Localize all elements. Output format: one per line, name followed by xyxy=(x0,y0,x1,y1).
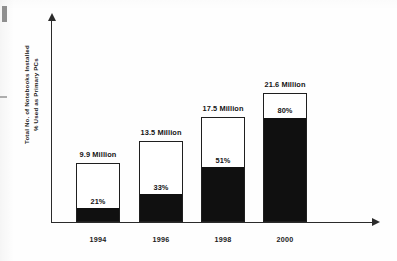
plot-area: 9.9 Million21%199413.5 Million33%199617.… xyxy=(0,0,397,261)
bar-fill-1996 xyxy=(140,194,182,221)
bar-total-label-2000: 21.6 Million xyxy=(264,80,305,89)
bar-percent-label-1994: 21% xyxy=(90,197,105,206)
bar-total-label-1994: 9.9 Million xyxy=(80,150,117,159)
bar-group-2000: 21.6 Million80%2000 xyxy=(263,93,307,222)
bar-group-1998: 17.5 Million51%1998 xyxy=(201,117,245,221)
bar-percent-label-2000: 80% xyxy=(277,106,292,115)
bar-percent-label-1996: 33% xyxy=(153,183,168,192)
x-axis-tick-label-1996: 1996 xyxy=(153,235,170,244)
bar-group-1994: 9.9 Million21%1994 xyxy=(76,163,120,222)
x-axis-tick-label-1994: 1994 xyxy=(90,235,107,244)
bar-1996[interactable] xyxy=(139,141,183,221)
bar-1994[interactable] xyxy=(76,163,120,222)
bar-total-label-1996: 13.5 Million xyxy=(140,128,181,137)
bar-total-label-1998: 17.5 Million xyxy=(202,104,243,113)
bar-fill-1994 xyxy=(77,208,119,220)
bar-fill-2000 xyxy=(264,118,306,221)
x-axis-tick-label-1998: 1998 xyxy=(215,235,232,244)
chart-canvas: Total No. of Notebooks Installed % Used … xyxy=(0,0,397,261)
bar-percent-label-1998: 51% xyxy=(215,156,230,165)
bar-1998[interactable] xyxy=(201,117,245,221)
bar-group-1996: 13.5 Million33%1996 xyxy=(139,141,183,221)
bar-fill-1998 xyxy=(202,167,244,220)
x-axis-tick-label-2000: 2000 xyxy=(277,235,294,244)
